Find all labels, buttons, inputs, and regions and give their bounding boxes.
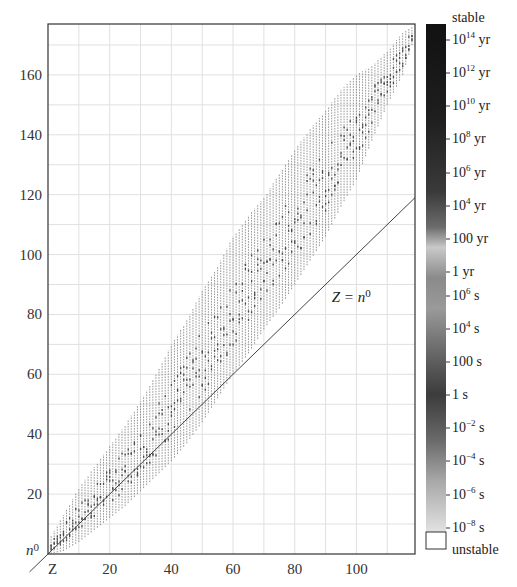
stable-nuclide-mark	[146, 448, 147, 450]
stable-nuclide-mark	[177, 389, 178, 391]
y-tick-label: 160	[20, 67, 43, 83]
stable-nuclide-mark	[134, 450, 135, 452]
stable-nuclide-mark	[408, 36, 409, 38]
stable-nuclide-mark	[303, 237, 304, 239]
stable-nuclide-mark	[146, 454, 147, 456]
stable-nuclide-mark	[137, 468, 138, 470]
stable-nuclide-mark	[279, 222, 280, 224]
stable-nuclide-mark	[140, 434, 141, 436]
stable-nuclide-mark	[186, 367, 187, 369]
stable-nuclide-mark	[377, 102, 378, 104]
stable-nuclide-mark	[199, 369, 200, 371]
stable-nuclide-mark	[380, 94, 381, 96]
stable-nuclide-mark	[118, 481, 119, 483]
stable-nuclide-mark	[60, 543, 61, 545]
stable-nuclide-mark	[362, 126, 363, 128]
stable-nuclide-mark	[408, 48, 409, 50]
stable-nuclide-mark	[115, 482, 116, 484]
stable-nuclide-mark	[396, 60, 397, 62]
stable-nuclide-mark	[121, 453, 122, 455]
stable-nuclide-mark	[115, 471, 116, 473]
stable-nuclide-mark	[180, 372, 181, 374]
colorbar-label: 1 s	[452, 387, 468, 402]
stable-nuclide-mark	[69, 517, 70, 519]
stable-nuclide-mark	[217, 359, 218, 361]
stable-nuclide-mark	[288, 211, 289, 213]
stable-nuclide-mark	[269, 239, 270, 241]
stable-nuclide-mark	[214, 336, 215, 338]
stable-nuclide-mark	[121, 474, 122, 476]
stable-nuclide-mark	[316, 204, 317, 206]
stable-nuclide-mark	[248, 310, 249, 312]
stable-nuclide-mark	[189, 408, 190, 410]
stable-nuclide-mark	[75, 522, 76, 524]
stable-nuclide-mark	[273, 248, 274, 250]
stable-nuclide-mark	[189, 379, 190, 381]
stable-nuclide-mark	[152, 427, 153, 429]
stable-nuclide-mark	[186, 379, 187, 381]
stable-nuclide-mark	[334, 174, 335, 176]
stable-nuclide-mark	[340, 155, 341, 157]
stable-nuclide-mark	[325, 203, 326, 205]
x-tick-label: 100	[345, 561, 368, 577]
stable-nuclide-mark	[146, 451, 147, 453]
stable-nuclide-mark	[106, 475, 107, 477]
stable-nuclide-mark	[328, 201, 329, 203]
stable-nuclide-mark	[54, 538, 55, 540]
stable-nuclide-mark	[260, 298, 261, 300]
stable-nuclide-mark	[195, 372, 196, 374]
stable-nuclide-mark	[399, 69, 400, 71]
stable-nuclide-mark	[276, 223, 277, 225]
stable-nuclide-mark	[174, 426, 175, 428]
colorbar-label: 10−2 s	[452, 418, 485, 435]
stable-nuclide-mark	[205, 377, 206, 379]
stable-nuclide-mark	[343, 157, 344, 159]
stable-nuclide-mark	[171, 384, 172, 386]
stable-nuclide-mark	[251, 254, 252, 256]
stable-nuclide-mark	[294, 221, 295, 223]
stable-nuclide-mark	[72, 520, 73, 522]
stable-nuclide-mark	[393, 58, 394, 60]
stable-nuclide-mark	[205, 389, 206, 391]
stable-nuclide-mark	[208, 360, 209, 362]
stable-nuclide-mark	[208, 322, 209, 324]
stable-nuclide-mark	[297, 219, 298, 221]
stable-nuclide-mark	[205, 369, 206, 371]
stable-nuclide-mark	[260, 288, 261, 290]
stable-nuclide-mark	[353, 151, 354, 153]
stable-nuclide-mark	[66, 521, 67, 523]
stable-nuclide-mark	[109, 476, 110, 478]
stable-nuclide-mark	[276, 234, 277, 236]
stable-nuclide-mark	[343, 126, 344, 128]
stable-nuclide-mark	[69, 528, 70, 530]
stable-nuclide-mark	[103, 483, 104, 485]
stable-nuclide-mark	[211, 368, 212, 370]
stable-nuclide-mark	[54, 542, 55, 544]
y-axis-label: n0	[26, 541, 40, 558]
stable-nuclide-mark	[297, 208, 298, 210]
stable-nuclide-mark	[199, 396, 200, 398]
stable-nuclide-mark	[310, 178, 311, 180]
y-tick-label: 140	[20, 127, 43, 143]
stable-nuclide-mark	[229, 344, 230, 346]
stable-nuclide-mark	[94, 515, 95, 517]
stable-nuclide-mark	[285, 205, 286, 207]
stable-nuclide-mark	[199, 375, 200, 377]
stable-nuclide-mark	[217, 348, 218, 350]
stable-nuclide-mark	[143, 446, 144, 448]
stable-nuclide-mark	[158, 412, 159, 414]
colorbar-label: 104 s	[452, 319, 479, 336]
stable-nuclide-mark	[168, 439, 169, 441]
stable-nuclide-mark	[362, 124, 363, 126]
stable-nuclide-mark	[162, 409, 163, 411]
stable-nuclide-mark	[374, 86, 375, 88]
x-axis-label: Z	[48, 561, 57, 577]
stable-nuclide-mark	[220, 360, 221, 362]
stable-nuclide-mark	[405, 54, 406, 56]
stable-nuclide-mark	[149, 462, 150, 464]
stable-nuclide-mark	[226, 333, 227, 335]
stable-nuclide-mark	[325, 210, 326, 212]
x-tick-label: 80	[287, 561, 302, 577]
stable-nuclide-mark	[319, 179, 320, 181]
stable-nuclide-mark	[171, 415, 172, 417]
